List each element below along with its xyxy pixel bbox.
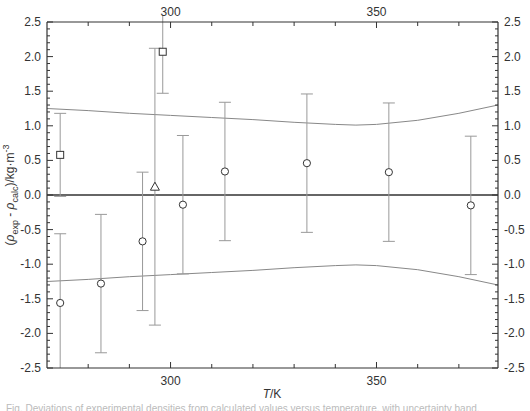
error-bars	[54, 16, 477, 368]
triangle-marker	[150, 182, 159, 190]
circle-marker	[221, 168, 228, 175]
circle-marker	[467, 202, 474, 209]
y-tick-label-right: -1.0	[504, 257, 525, 271]
y-tick-label-left: 0.5	[24, 153, 41, 167]
circle-marker	[97, 280, 104, 287]
x-axis-title: T/K	[263, 387, 282, 401]
y-tick-label-left: 1.0	[24, 119, 41, 133]
x-tick-label-bottom: 350	[366, 374, 386, 388]
lower-uncertainty-curve	[47, 265, 498, 285]
square-marker	[159, 48, 166, 55]
y-tick-label-right: -2.0	[504, 326, 525, 340]
y-tick-label-left: 1.5	[24, 84, 41, 98]
y-tick-label-right: -2.5	[504, 361, 525, 375]
y-tick-label-left: 2.5	[24, 15, 41, 29]
data-markers	[57, 48, 475, 306]
y-tick-label-right: -1.5	[504, 292, 525, 306]
x-tick-label-bottom: 300	[161, 374, 181, 388]
y-tick-label-left: -1.0	[20, 257, 41, 271]
y-tick-label-left: 0.0	[24, 188, 41, 202]
y-tick-label-right: 0.5	[504, 153, 521, 167]
y-tick-label-right: 2.0	[504, 50, 521, 64]
y-tick-label-left: 2.0	[24, 50, 41, 64]
square-marker	[57, 151, 64, 158]
circle-marker	[179, 201, 186, 208]
y-tick-label-right: 1.5	[504, 84, 521, 98]
tick-labels: -2.5-2.5-2.0-2.0-1.5-1.5-1.0-1.0-0.5-0.5…	[20, 5, 525, 388]
circle-marker	[303, 160, 310, 167]
y-tick-label-left: -0.5	[20, 223, 41, 237]
y-axis-title: (ρexp - ρcalc)/kg·m-3	[1, 145, 20, 246]
y-tick-label-right: 0.0	[504, 188, 521, 202]
y-tick-label-left: -2.0	[20, 326, 41, 340]
circle-marker	[57, 299, 64, 306]
circle-marker	[139, 238, 146, 245]
y-tick-label-left: -1.5	[20, 292, 41, 306]
y-tick-label-left: -2.5	[20, 361, 41, 375]
y-tick-label-right: 2.5	[504, 15, 521, 29]
figure-caption: Fig. Deviations of experimental densitie…	[6, 402, 526, 411]
y-tick-label-right: -0.5	[504, 223, 525, 237]
circle-marker	[385, 169, 392, 176]
deviation-chart: -2.5-2.5-2.0-2.0-1.5-1.5-1.0-1.0-0.5-0.5…	[0, 0, 530, 411]
x-tick-label-top: 300	[161, 5, 181, 19]
upper-uncertainty-curve	[47, 105, 498, 125]
y-tick-label-right: 1.0	[504, 119, 521, 133]
x-tick-label-top: 350	[366, 5, 386, 19]
